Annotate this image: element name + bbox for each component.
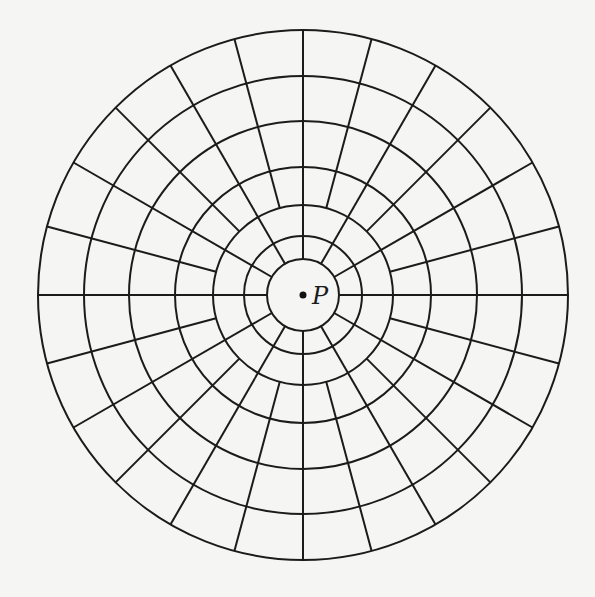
secondary-spoke: [367, 108, 491, 232]
center-point-label: P: [311, 282, 329, 310]
secondary-spoke: [116, 108, 240, 232]
center-point-dot: [300, 292, 307, 299]
secondary-spoke: [116, 359, 240, 483]
polar-grid-diagram: P: [0, 0, 595, 597]
secondary-spoke: [367, 359, 491, 483]
polar-grid-svg: P: [0, 0, 595, 597]
